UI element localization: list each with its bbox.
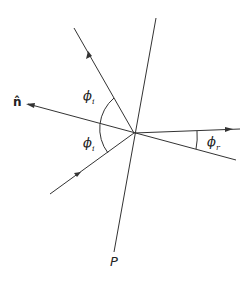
plane-label: P — [110, 255, 118, 268]
reflected-ray — [74, 28, 134, 133]
angle-arc-r — [196, 131, 197, 149]
phi-r-label: ϕr — [207, 135, 220, 152]
phi-i-lower-label: ϕi — [83, 136, 94, 153]
refracted-ray — [134, 129, 240, 133]
phi-i-upper-label: ϕi — [83, 89, 94, 106]
arrowhead-normal-icon — [26, 103, 35, 108]
plane-line — [114, 18, 156, 252]
normal-label: n̂ — [13, 96, 22, 108]
